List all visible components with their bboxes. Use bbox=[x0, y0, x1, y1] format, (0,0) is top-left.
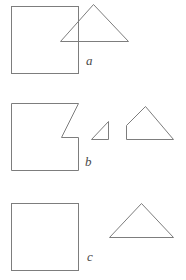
panel-b-truncated-triangle bbox=[127, 107, 174, 140]
panel-label-c: c bbox=[87, 250, 93, 263]
panel-a bbox=[12, 5, 129, 74]
panel-c-square bbox=[12, 204, 79, 271]
panel-b-notched-square bbox=[12, 104, 79, 171]
panel-label-b: b bbox=[85, 155, 92, 168]
panel-b bbox=[12, 104, 174, 171]
geometry-figure bbox=[0, 0, 186, 280]
panel-label-a: a bbox=[86, 54, 93, 67]
panel-a-square bbox=[12, 7, 79, 74]
panel-b-small-triangle bbox=[92, 122, 109, 140]
panel-a-triangle bbox=[61, 5, 129, 42]
panel-c-triangle bbox=[110, 204, 174, 238]
